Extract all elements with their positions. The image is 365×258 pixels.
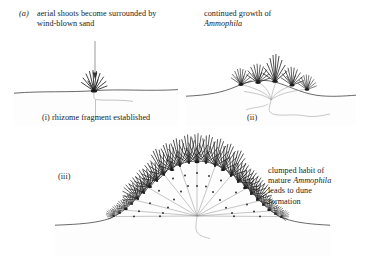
stage-iii-species-name: Ammophila bbox=[293, 176, 331, 185]
stage-iii-caption-line4: formation bbox=[268, 197, 301, 206]
figure-container: (a) aerial shoots become surrounded by w… bbox=[0, 0, 365, 258]
stage-ii-caption: continued growth of Ammophila bbox=[204, 9, 324, 29]
stage-iii-caption-line3: leads to dune bbox=[268, 186, 312, 195]
stage-iii-caption-line1: clumped habit of bbox=[268, 166, 324, 175]
stage-ii-caption-line1: continued growth of bbox=[204, 9, 271, 18]
panel-label-a: (a) bbox=[19, 9, 29, 19]
stage-iii-caption: clumped habit of mature Ammophila leads … bbox=[268, 166, 363, 207]
stage-i-label: (i) rhizome fragment established bbox=[42, 113, 191, 123]
stage-i-roman: (i) bbox=[42, 113, 50, 122]
stage-iii-label: (iii) bbox=[58, 172, 71, 182]
diagram-artwork bbox=[0, 0, 365, 258]
stage-i-caption: aerial shoots become surrounded by wind-… bbox=[37, 9, 169, 29]
stage-ii-label: (ii) bbox=[247, 113, 257, 123]
stage-ii-species-name: Ammophila bbox=[204, 19, 242, 28]
stage-i-label-text: rhizome fragment established bbox=[52, 113, 150, 122]
stage-iii-caption-line2-pre: mature bbox=[268, 176, 293, 185]
panel-ii-artwork bbox=[186, 54, 356, 126]
